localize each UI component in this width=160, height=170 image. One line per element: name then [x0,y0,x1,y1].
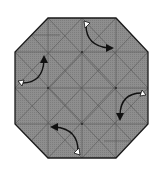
origami-octagon-diagram [0,0,160,170]
